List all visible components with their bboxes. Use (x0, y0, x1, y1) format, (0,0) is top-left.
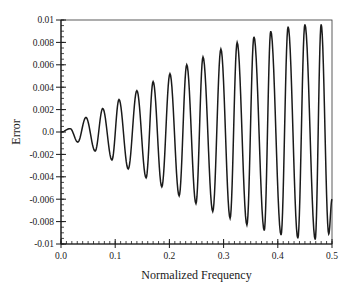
y-tick-label: -0.004 (29, 172, 54, 182)
x-tick-label: 0.3 (218, 251, 230, 261)
x-tick-label: 0.2 (163, 251, 175, 261)
y-axis-label: Error (6, 122, 26, 142)
x-tick-label: 0.4 (272, 251, 284, 261)
y-tick-label: 0.002 (33, 105, 55, 115)
x-tick-label: 0.5 (326, 251, 338, 261)
error-curve (61, 24, 332, 239)
plot-border (61, 20, 332, 244)
plot-svg: 0.010.0080.0060.0040.0020.0-0.002-0.004-… (0, 0, 350, 296)
y-tick-label: -0.006 (29, 195, 54, 205)
x-tick-label: 0.0 (55, 251, 67, 261)
y-tick-label: -0.01 (34, 239, 54, 249)
y-tick-label: 0.01 (37, 15, 54, 25)
plot-frame (61, 20, 332, 244)
x-axis-ticks: 0.00.10.20.30.40.5 (55, 239, 338, 261)
x-tick-label: 0.1 (109, 251, 121, 261)
y-tick-label: -0.008 (29, 217, 54, 227)
y-tick-label: 0.008 (33, 38, 55, 48)
y-tick-label: 0.0 (42, 127, 54, 137)
x-axis-label: Normalized Frequency (61, 268, 332, 283)
error-vs-frequency-chart: 0.010.0080.0060.0040.0020.0-0.002-0.004-… (0, 0, 350, 296)
y-tick-label: 0.006 (33, 60, 55, 70)
y-tick-label: 0.004 (33, 83, 55, 93)
y-tick-label: -0.002 (29, 150, 54, 160)
